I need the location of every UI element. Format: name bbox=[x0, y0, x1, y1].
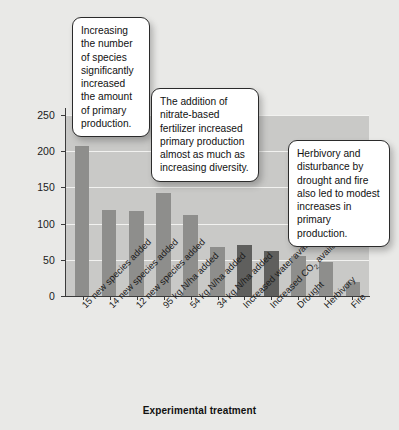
y-axis-tick bbox=[61, 187, 66, 188]
y-axis-tick bbox=[61, 151, 66, 152]
y-axis-tick bbox=[61, 224, 66, 225]
y-axis-line bbox=[65, 108, 66, 296]
callout-species-diversity: Increasing the number of species signifi… bbox=[72, 17, 150, 137]
y-axis-tick-label: 0 bbox=[25, 290, 55, 302]
y-axis-tick bbox=[61, 115, 66, 116]
y-axis-tick bbox=[61, 296, 66, 297]
y-axis-tick-label: 200 bbox=[25, 145, 55, 157]
bar-slot bbox=[70, 115, 94, 296]
callout-disturbance: Herbivory and disturbance by drought and… bbox=[288, 140, 390, 247]
y-axis-tick-label: 150 bbox=[25, 181, 55, 193]
callout-fertilizer: The addition of nitrate-based fertilizer… bbox=[151, 88, 259, 182]
x-axis-title: Experimental treatment bbox=[0, 405, 399, 416]
y-axis-tick-label: 100 bbox=[25, 218, 55, 230]
y-axis-tick-label: 50 bbox=[25, 254, 55, 266]
bar bbox=[75, 146, 90, 296]
y-axis-tick-label: 250 bbox=[25, 109, 55, 121]
figure-container: 050100150200250 15 new species added14 n… bbox=[0, 0, 399, 430]
y-axis-tick bbox=[61, 260, 66, 261]
